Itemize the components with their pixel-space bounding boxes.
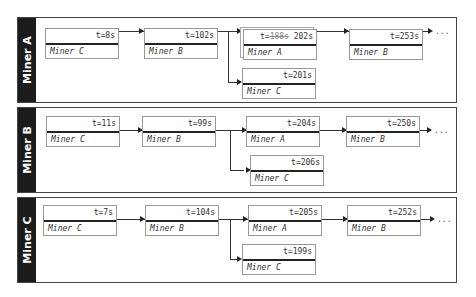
- block-miner: Miner C: [255, 174, 289, 183]
- block-time: t=102s: [185, 31, 214, 40]
- fork-block: t=206s Miner C: [250, 155, 324, 186]
- time-prefix: t=: [260, 32, 270, 41]
- block-time: t=199s: [283, 247, 312, 256]
- block-2: t=102s Miner B: [144, 28, 218, 59]
- block-time: t=8s: [96, 31, 115, 40]
- block-3: t=205s Miner A: [248, 205, 322, 236]
- block-2: t=104s Miner B: [145, 205, 219, 236]
- panel-label: Miner A: [21, 36, 34, 84]
- fork-line-vertical: [228, 31, 229, 82]
- block-bar: [243, 83, 315, 85]
- block-bar: [251, 170, 323, 172]
- block-bar: [47, 131, 119, 133]
- block-2: t=99s Miner B: [142, 116, 216, 147]
- block-bar: [143, 131, 215, 133]
- block-bar: [146, 220, 218, 222]
- block-time: t=188s 202s: [260, 32, 313, 41]
- fork-block: t=201s Miner C: [242, 68, 316, 99]
- block-miner: Miner C: [48, 224, 82, 233]
- panel-label: Miner B: [21, 126, 34, 174]
- block-1: t=7s Miner C: [43, 205, 117, 236]
- block-miner: Miner A: [248, 48, 282, 57]
- block-miner: Miner B: [351, 135, 385, 144]
- block-bar: [244, 44, 316, 46]
- panel-miner-a: Miner A t=8s Miner C t=102s Miner B t=18…: [17, 17, 457, 103]
- continuation: ...: [435, 27, 449, 36]
- block-4: t=252s Miner B: [347, 205, 421, 236]
- block-4: t=253s Miner B: [349, 29, 423, 60]
- block-miner: Miner B: [150, 224, 184, 233]
- block-time: t=201s: [283, 71, 312, 80]
- block-bar: [145, 43, 217, 45]
- block-miner: Miner B: [352, 224, 386, 233]
- block-3: t=188s 202s Miner A: [243, 29, 317, 60]
- block-time: t=252s: [388, 208, 417, 217]
- block-bar: [348, 220, 420, 222]
- continuation: ...: [434, 126, 448, 135]
- block-bar: [44, 220, 116, 222]
- block-bar: [350, 44, 422, 46]
- arrow-icon: [430, 216, 435, 222]
- fork-line-vertical: [230, 130, 231, 170]
- block-time: t=206s: [291, 158, 320, 167]
- block-time: t=205s: [289, 208, 318, 217]
- block-miner: Miner A: [251, 135, 285, 144]
- block-1: t=11s Miner C: [46, 116, 120, 147]
- fork-block: t=199s Miner C: [242, 244, 316, 275]
- block-time: t=253s: [390, 32, 419, 41]
- block-miner: Miner B: [149, 47, 183, 56]
- block-time: t=104s: [186, 208, 215, 217]
- fork-line-vertical: [230, 219, 231, 259]
- block-miner: Miner C: [247, 87, 281, 96]
- panel-label-strip: Miner B: [18, 108, 36, 192]
- block-3: t=204s Miner A: [246, 116, 320, 147]
- block-time: t=99s: [188, 119, 212, 128]
- panel-miner-b: Miner B t=11s Miner C t=99s Miner B t=20…: [17, 107, 457, 193]
- block-bar: [347, 131, 419, 133]
- block-time: t=11s: [92, 119, 116, 128]
- panel-miner-c: Miner C t=7s Miner C t=104s Miner B t=20…: [17, 197, 457, 283]
- block-bar: [243, 259, 315, 261]
- block-bar: [46, 43, 118, 45]
- block-bar: [249, 220, 321, 222]
- block-miner: Miner A: [253, 224, 287, 233]
- block-time: t=204s: [287, 119, 316, 128]
- panel-label-strip: Miner C: [18, 198, 36, 282]
- block-4: t=250s Miner B: [346, 116, 420, 147]
- panel-label: Miner C: [21, 216, 34, 263]
- panel-label-strip: Miner A: [18, 18, 36, 102]
- time-struck: 188s: [270, 32, 289, 41]
- arrow-icon: [427, 127, 432, 133]
- block-1: t=8s Miner C: [45, 28, 119, 59]
- block-miner: Miner B: [147, 135, 181, 144]
- block-miner: Miner C: [247, 263, 281, 272]
- fork-line-horizontal: [230, 170, 244, 171]
- arrow-icon: [428, 28, 433, 34]
- block-miner: Miner B: [354, 48, 388, 57]
- time-new: 202s: [294, 32, 313, 41]
- block-time: t=7s: [94, 208, 113, 217]
- continuation: ...: [437, 215, 451, 224]
- block-miner: Miner C: [51, 135, 85, 144]
- block-bar: [247, 131, 319, 133]
- block-time: t=250s: [387, 119, 416, 128]
- block-miner: Miner C: [50, 47, 84, 56]
